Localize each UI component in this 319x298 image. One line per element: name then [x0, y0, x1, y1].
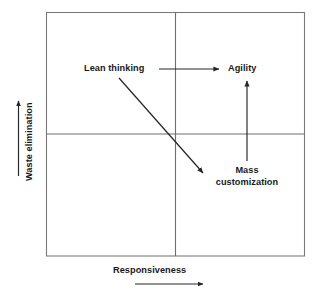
node-label-mass-customization-line2: customization — [216, 177, 278, 187]
x-axis-label: Responsiveness — [113, 265, 186, 277]
node-label-mass-customization-line1: Mass — [235, 165, 258, 175]
node-label-agility: Agility — [228, 63, 256, 75]
diagram-canvas — [0, 0, 319, 298]
quadrant-diagram: Lean thinking Agility Mass customization… — [0, 0, 319, 298]
node-label-lean-thinking: Lean thinking — [84, 63, 144, 75]
node-label-mass-customization: Mass customization — [205, 165, 289, 188]
y-axis-label: Waste elimination — [24, 93, 36, 191]
